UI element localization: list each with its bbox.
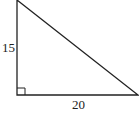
- horizontal-leg-label: 20: [72, 97, 85, 112]
- right-angle-marker: [17, 88, 25, 95]
- vertical-leg-label: 15: [2, 40, 15, 55]
- triangle-diagram: 15 20: [0, 0, 139, 114]
- right-triangle: [17, 0, 138, 95]
